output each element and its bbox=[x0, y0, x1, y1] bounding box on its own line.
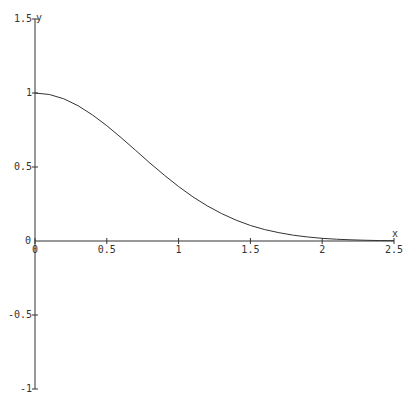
x-tick-label: 0 bbox=[32, 244, 38, 255]
x-tick-label: 2.5 bbox=[385, 244, 403, 255]
y-tick-label: 0 bbox=[25, 235, 31, 246]
chart: x y 00.511.522.5-1-0.500.511.5 bbox=[0, 0, 414, 401]
y-tick-label: 1.5 bbox=[14, 13, 32, 24]
y-tick-label: -0.5 bbox=[8, 309, 32, 320]
y-tick-label: 1 bbox=[26, 87, 32, 98]
y-tick-label: -1 bbox=[20, 383, 32, 394]
y-tick-label: 0.5 bbox=[14, 161, 32, 172]
x-tick-label: 0.5 bbox=[98, 244, 116, 255]
y-axis-label: y bbox=[36, 12, 42, 23]
x-tick-label: 1.5 bbox=[241, 244, 259, 255]
series-line bbox=[35, 93, 394, 241]
x-tick-label: 2 bbox=[319, 244, 325, 255]
x-tick-label: 1 bbox=[176, 244, 182, 255]
x-axis-label: x bbox=[392, 228, 398, 239]
ticks: 00.511.522.5-1-0.500.511.5 bbox=[8, 13, 403, 394]
